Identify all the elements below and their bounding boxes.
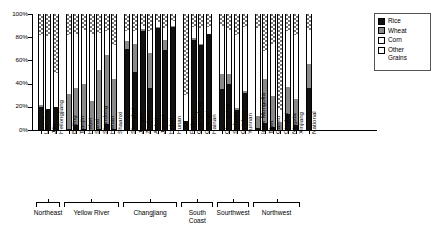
x-axis-label: Beijing (71, 115, 77, 134)
bar-segment-other (141, 14, 145, 26)
legend-swatch-other-grains (378, 47, 385, 54)
bar-segment-other (67, 14, 71, 35)
x-axis-label: Guizhou (240, 111, 246, 134)
bar-segment-corn (199, 28, 203, 44)
bar-segment-other (97, 14, 101, 33)
bar-segment-other (235, 14, 239, 35)
bar-segment-wheat (192, 38, 196, 39)
group-brace (217, 202, 249, 207)
bar-segment-wheat (156, 27, 160, 28)
bar-segment-other (112, 14, 116, 45)
bar (66, 14, 72, 130)
x-axis-label: Liaoning (43, 111, 49, 134)
bar-segment-other (271, 14, 275, 44)
bar-segment-other (184, 14, 188, 95)
bar-segment-corn (220, 26, 224, 75)
group-label: Northwest (253, 209, 300, 217)
bar-segment-other (307, 14, 311, 30)
group-label: Sourthwest (211, 209, 255, 217)
bar-segment-corn (227, 30, 231, 74)
bar-segment-other (171, 14, 175, 21)
bar (155, 14, 161, 130)
x-axis-label: Inner Mongolia (260, 93, 266, 134)
bar-segment-other (82, 14, 86, 30)
x-axis-label: Heilongjiang (58, 100, 64, 134)
bar-segment-other (294, 14, 298, 35)
legend-swatch-wheat (378, 27, 385, 34)
x-axis-label: Hebei (87, 118, 93, 134)
bar-segment-other (207, 14, 211, 27)
x-axis-label: Yunnan (247, 113, 253, 134)
bar-segment-corn (67, 35, 71, 94)
bar-segment-other (39, 14, 43, 35)
legend-label-rice: Rice (388, 17, 401, 24)
legend-item-corn: Corn (378, 36, 428, 44)
group-brace (253, 202, 300, 207)
bar-segment-other (133, 14, 137, 31)
y-tick-label: 0% (0, 127, 28, 133)
bar-segment-other (148, 14, 152, 31)
x-axis-label: National (311, 111, 317, 134)
legend-label-corn: Corn (388, 36, 402, 43)
x-axis-label: Hainan (211, 114, 217, 134)
x-axis-label: Sanxi (94, 119, 100, 134)
bar-segment-other (54, 14, 58, 73)
bar-segment-wheat (171, 26, 175, 27)
bar-segment-corn (163, 28, 167, 40)
bar-segment-wheat (141, 29, 145, 31)
x-axis-label: Gansu (275, 116, 281, 134)
bar-segment-corn (39, 35, 43, 105)
bar (270, 14, 276, 130)
y-tick (28, 130, 32, 131)
group-label: Changjiang (123, 209, 178, 217)
bar-segment-other (256, 14, 260, 28)
group-brace (181, 202, 213, 207)
bar-segment-other (74, 14, 78, 34)
y-tick-label: 80% (0, 34, 28, 40)
bar-segment-other (163, 14, 167, 28)
y-tick (28, 37, 32, 38)
x-axis-label: Hunan (176, 116, 182, 134)
bar-segment-other (263, 14, 267, 51)
bar-segment-other (220, 14, 224, 26)
bar-segment-corn (207, 27, 211, 34)
x-axis-label: Tianjin (79, 116, 85, 134)
bar-segment-other (125, 14, 129, 31)
bar-segment-other (278, 14, 282, 110)
bar-segment-wheat (220, 74, 224, 89)
bar (162, 14, 168, 130)
group-brace (123, 202, 178, 207)
bar-segment-corn (263, 51, 267, 79)
bar (81, 14, 87, 130)
x-axis-label: Qinghai (283, 113, 289, 134)
bar-segment-corn (133, 31, 137, 44)
bar-segment-corn (112, 45, 116, 79)
bar-segment-corn (156, 22, 160, 27)
y-tick (28, 84, 32, 85)
bar-segment-corn (171, 21, 175, 26)
y-tick (28, 60, 32, 61)
bar-segment-wheat (39, 105, 43, 107)
bar-segment-other (105, 14, 109, 31)
x-axis-label: Zhejiang (145, 110, 151, 134)
bar-segment-wheat (148, 53, 152, 88)
chart-legend: Rice Wheat Corn Other Grains (374, 13, 431, 71)
bar-segment-other (243, 14, 247, 27)
x-axis-label: Sichuan (232, 112, 238, 134)
bar-segment-wheat (286, 87, 290, 114)
x-axis-label: Shanghai (130, 108, 136, 134)
bar-segment-wheat (125, 41, 129, 49)
x-tick (186, 131, 187, 134)
legend-label-wheat: Wheat (388, 27, 406, 34)
bar-segment-other (227, 14, 231, 30)
bar-segment-corn (243, 27, 247, 91)
group-brace (64, 202, 119, 207)
bar-segment-corn (105, 31, 109, 54)
bar-segment-other (199, 14, 203, 28)
x-axis-label: Jiangxi (160, 115, 166, 134)
y-tick (28, 107, 32, 108)
chart-figure: 0%20%40%60%80%100% LiaoningJilinHeilongj… (0, 0, 434, 243)
bar-segment-wheat (235, 108, 239, 110)
bar-segment-corn (97, 33, 101, 70)
bar-segment-corn (235, 35, 239, 108)
